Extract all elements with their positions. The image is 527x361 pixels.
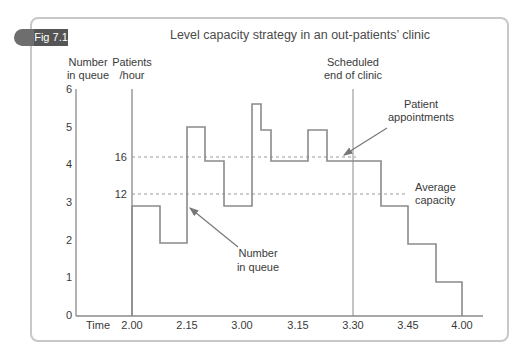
patients-axis-title-line1: Patients (112, 56, 152, 68)
scheduled-end-label-line2: end of clinic (324, 69, 383, 81)
y-tick-labels: 6 5 4 3 2 1 0 (66, 83, 72, 321)
appointments-label-line1: Patient (404, 98, 438, 110)
scheduled-end-label-line1: Scheduled (327, 56, 379, 68)
y-tick-5: 5 (66, 121, 72, 133)
x-tick-3-00: 3.00 (231, 319, 252, 331)
x-tick-2-15: 2.15 (176, 319, 197, 331)
y-tick-3: 3 (66, 196, 72, 208)
y-tick-1: 1 (66, 271, 72, 283)
chart-plot: Number in queue Patients /hour Scheduled… (0, 0, 527, 361)
average-capacity-label-line1: Average (415, 181, 456, 193)
y-tick-4: 4 (66, 158, 72, 170)
appointments-label-line2: appointments (388, 111, 455, 123)
y-tick-2: 2 (66, 234, 72, 246)
y-tick-0: 0 (66, 309, 72, 321)
y-axis-title-line1: Number (68, 56, 107, 68)
queue-step-line (132, 104, 462, 316)
x-tick-labels: Time 2.00 2.15 3.00 3.15 3.30 3.45 4.00 (86, 319, 473, 331)
queue-label-line1: Number (238, 247, 277, 259)
queue-label-line2: in queue (237, 261, 279, 273)
x-tick-3-45: 3.45 (397, 319, 418, 331)
patients-tick-12: 12 (115, 188, 127, 200)
queue-arrow-icon (190, 208, 238, 247)
x-tick-2-00: 2.00 (121, 319, 142, 331)
x-tick-3-30: 3.30 (342, 319, 363, 331)
patients-tick-16: 16 (115, 151, 127, 163)
average-capacity-label-line2: capacity (415, 194, 456, 206)
patients-axis-title-line2: /hour (119, 69, 144, 81)
y-tick-6: 6 (66, 83, 72, 95)
x-axis-title: Time (86, 319, 110, 331)
x-tick-3-15: 3.15 (287, 319, 308, 331)
appointments-arrow-icon (344, 128, 387, 155)
x-tick-4-00: 4.00 (451, 319, 472, 331)
y-axis-title-line2: in queue (67, 69, 109, 81)
